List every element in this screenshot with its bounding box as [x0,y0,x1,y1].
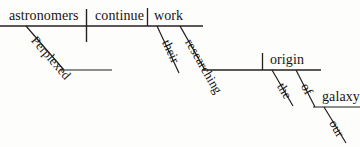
word-participle-object: origin [270,53,304,67]
sentence-diagram: astronomers continue work origin galaxy … [0,0,360,147]
word-prep-object: galaxy [322,90,360,104]
word-verb: continue [95,9,144,23]
word-object: work [154,9,183,23]
word-subject: astronomers [9,9,79,23]
